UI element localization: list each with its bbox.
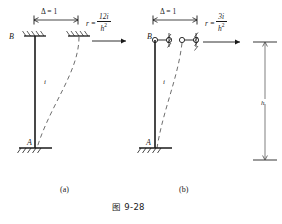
panel-a-force-fraction: 12i h2 (97, 13, 111, 32)
panel-b-member-stiffness-label: i (163, 79, 165, 86)
panel-b-force-fraction: 3i h2 (216, 13, 227, 32)
panel-a-top-support-displaced (67, 31, 91, 36)
figure-number: 图 9-28 (112, 203, 145, 212)
panel-b-deflected-shape (157, 43, 182, 148)
panel-a-drawing (18, 16, 127, 154)
figure-9-28: Δ = 1 B i A r = 12i h2 Δ = 1 B i A r = 3… (0, 0, 282, 224)
panel-a-caption: (a) (60, 186, 69, 194)
panel-a-top-joint-label: B (9, 33, 14, 41)
panel-a-force-symbol-text: r (86, 19, 89, 28)
panel-b-force-numerator: 3i (216, 13, 227, 21)
panel-a-top-support-original (23, 31, 47, 36)
panel-b-force-denominator: h2 (216, 21, 227, 32)
panel-a-force-symbol: r = (86, 19, 96, 28)
panel-b-top-support-displaced (179, 33, 198, 51)
panel-b-displacement-dimension (153, 16, 197, 25)
panel-a-force-equals: = (91, 19, 96, 28)
panel-b-force-equals: = (210, 19, 215, 28)
figure-drawing-canvas (0, 0, 282, 224)
panel-a-force-numerator: 12i (97, 13, 111, 21)
panel-b-drawing (138, 16, 241, 154)
panel-a-member-stiffness-label: i (44, 79, 46, 86)
right-height-dimension-label: h (261, 100, 265, 107)
panel-b-displacement-label: Δ = 1 (160, 8, 176, 16)
panel-b-caption: (b) (179, 186, 188, 194)
right-height-element (253, 42, 277, 160)
panel-a-force-denominator: h2 (97, 21, 111, 32)
panel-a-base-support (18, 148, 53, 153)
panel-a-displacement-label: Δ = 1 (41, 8, 57, 16)
panel-b-force-symbol: r = (205, 19, 215, 28)
panel-a-displacement-dimension (34, 16, 78, 25)
panel-a-deflected-shape (37, 37, 79, 148)
panel-a-force-denominator-exp: 2 (104, 22, 107, 28)
panel-b-base-support (138, 148, 173, 153)
panel-b-force-denominator-exp: 2 (222, 22, 225, 28)
panel-b-top-joint-label: B (147, 33, 152, 41)
panel-b-base-joint-label: A (146, 139, 151, 147)
panel-b-force-symbol-text: r (205, 19, 208, 28)
panel-a-base-joint-label: A (27, 139, 32, 147)
